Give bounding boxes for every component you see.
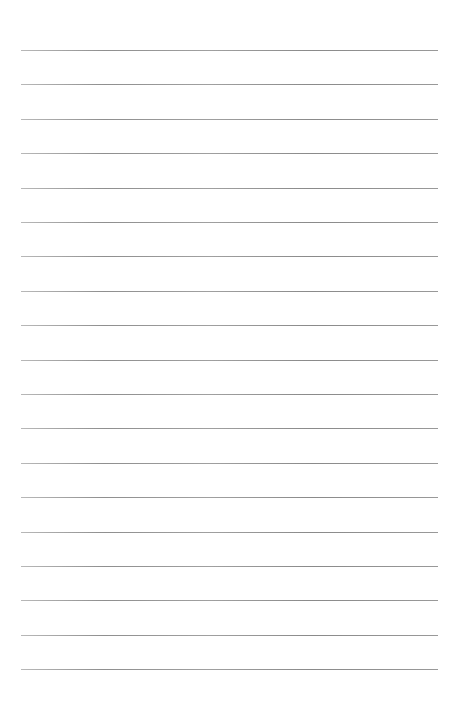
ruled-line <box>21 532 438 533</box>
ruled-line <box>21 325 438 326</box>
ruled-line <box>21 669 438 670</box>
ruled-line <box>21 566 438 567</box>
ruled-line <box>21 188 438 189</box>
ruled-line <box>21 256 438 257</box>
ruled-line <box>21 222 438 223</box>
ruled-line <box>21 360 438 361</box>
ruled-line <box>21 497 438 498</box>
ruled-line <box>21 463 438 464</box>
ruled-line <box>21 50 438 51</box>
ruled-line <box>21 153 438 154</box>
ruled-line <box>21 119 438 120</box>
ruled-line <box>21 84 438 85</box>
lined-paper-page <box>0 0 464 708</box>
ruled-line <box>21 600 438 601</box>
ruled-line <box>21 635 438 636</box>
ruled-line <box>21 428 438 429</box>
ruled-line <box>21 394 438 395</box>
ruled-line <box>21 291 438 292</box>
